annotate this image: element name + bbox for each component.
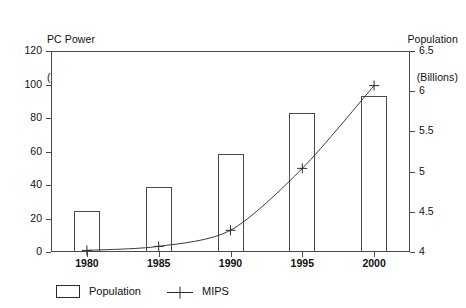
bar-population-1995 (289, 113, 315, 252)
left-tick-label: 0 (2, 246, 42, 257)
x-tick-mark (302, 252, 303, 257)
x-tick-label: 1995 (272, 258, 332, 269)
right-tick-mark (410, 172, 415, 173)
left-tick-label: 120 (2, 45, 42, 56)
legend-item-mips[interactable]: MIPS (167, 285, 229, 298)
x-tick-label: 2000 (344, 258, 404, 269)
bar-population-2000 (361, 96, 387, 252)
right-tick-label: 6 (419, 85, 463, 96)
legend-item-population[interactable]: Population (56, 285, 141, 298)
plus-line-icon (167, 285, 193, 298)
right-tick-label: 5.5 (419, 125, 463, 136)
x-tick-mark (374, 252, 375, 257)
legend-label-mips: MIPS (202, 285, 229, 297)
left-tick-mark (46, 51, 51, 52)
left-tick-mark (46, 152, 51, 153)
left-tick-label: 40 (2, 179, 42, 190)
left-tick-label: 60 (2, 146, 42, 157)
right-tick-label: 4 (419, 246, 463, 257)
x-tick-mark (87, 252, 88, 257)
x-tick-label: 1990 (201, 258, 261, 269)
left-tick-label: 100 (2, 79, 42, 90)
right-tick-label: 5 (419, 166, 463, 177)
x-tick-label: 1985 (129, 258, 189, 269)
left-tick-mark (46, 85, 51, 86)
bar-population-1985 (146, 187, 172, 252)
left-axis-title-line1: PC Power (47, 33, 95, 46)
right-tick-label: 6.5 (419, 45, 463, 56)
x-tick-label: 1980 (57, 258, 117, 269)
chart-container: PC Power (MIPS) Population (Billions) 02… (0, 0, 466, 308)
legend-label-population: Population (89, 285, 141, 297)
left-tick-mark (46, 185, 51, 186)
x-tick-mark (231, 252, 232, 257)
right-tick-mark (410, 51, 415, 52)
left-tick-mark (46, 118, 51, 119)
x-tick-mark (159, 252, 160, 257)
left-tick-mark (46, 252, 51, 253)
chart-legend: Population MIPS (56, 280, 229, 302)
left-tick-label: 20 (2, 213, 42, 224)
right-tick-mark (410, 212, 415, 213)
bar-swatch-icon (56, 285, 80, 298)
right-tick-mark (410, 91, 415, 92)
right-axis-title-line2: (Billions) (407, 71, 458, 84)
right-tick-mark (410, 252, 415, 253)
left-tick-label: 80 (2, 112, 42, 123)
left-tick-mark (46, 219, 51, 220)
right-tick-label: 4.5 (419, 206, 463, 217)
bar-population-1980 (74, 211, 100, 252)
bar-population-1990 (218, 154, 244, 252)
right-tick-mark (410, 131, 415, 132)
